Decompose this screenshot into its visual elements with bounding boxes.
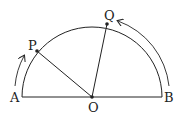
semicircle-arc xyxy=(22,27,162,97)
radius-OQ xyxy=(92,24,107,97)
arrow-A-to-P xyxy=(15,56,24,86)
label-A: A xyxy=(9,90,20,105)
label-Q: Q xyxy=(104,8,115,23)
label-O: O xyxy=(88,100,99,115)
radius-OP xyxy=(37,51,92,97)
semicircle-diagram: A B O P Q xyxy=(0,0,180,116)
point-O xyxy=(90,95,94,99)
arrow-B-to-Q xyxy=(118,21,169,86)
label-B: B xyxy=(164,90,174,105)
label-P: P xyxy=(28,38,37,53)
